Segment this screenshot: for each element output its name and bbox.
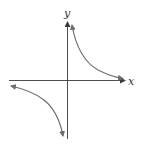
curve-branch-quadrant-3: [11, 86, 63, 136]
y-axis-label: y: [63, 7, 71, 20]
x-axis-label: x: [128, 75, 135, 88]
hyperbola-graph: y x: [0, 0, 142, 146]
curve-branch-quadrant-1: [72, 25, 123, 79]
